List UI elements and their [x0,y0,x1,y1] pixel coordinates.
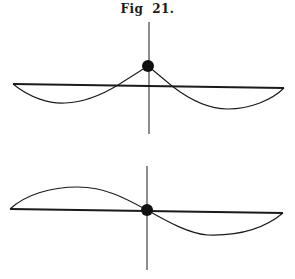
top-panel [13,22,284,134]
bottom-lower-arc [147,210,283,235]
top-mass-dot [142,60,154,72]
bottom-panel [10,166,283,270]
figure-canvas [0,0,295,279]
bottom-upper-arc [10,187,147,210]
bottom-mass-dot [141,204,153,216]
